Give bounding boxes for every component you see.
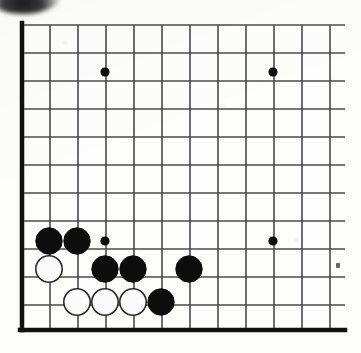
black-stone-3[interactable]	[92, 256, 118, 282]
star-points	[100, 67, 277, 245]
board-edges	[20, 23, 345, 330]
white-stone-3[interactable]	[92, 289, 118, 315]
white-stone-4[interactable]	[120, 289, 146, 315]
star-point-bottom-right-icon	[268, 236, 277, 245]
star-point-bottom-left-icon	[100, 236, 109, 245]
black-stone-5[interactable]	[176, 256, 202, 282]
star-point-top-right-icon	[268, 67, 277, 76]
black-stone-4[interactable]	[120, 256, 146, 282]
black-stone-1[interactable]	[36, 228, 62, 254]
star-point-top-left-icon	[100, 67, 109, 76]
grid-lines	[22, 25, 345, 330]
go-board-canvas[interactable]	[0, 0, 361, 353]
white-stone-1[interactable]	[36, 256, 62, 282]
black-stone-6[interactable]	[148, 289, 174, 315]
black-stone-2[interactable]	[64, 228, 90, 254]
stones-layer[interactable]	[36, 228, 202, 315]
go-board-diagram	[0, 0, 361, 353]
white-stone-2[interactable]	[64, 289, 90, 315]
